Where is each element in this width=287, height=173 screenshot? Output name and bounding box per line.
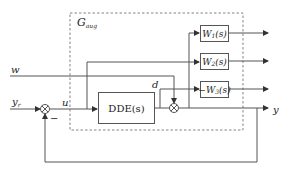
minus-text: −: [50, 113, 58, 124]
yr-main: y: [12, 96, 18, 107]
w3-sub: 3: [215, 88, 219, 95]
g-aug-sub: aug: [86, 22, 97, 29]
u-label: u: [62, 98, 68, 108]
d-text: d: [152, 79, 158, 90]
w3-main: W: [206, 85, 215, 95]
yr-sub: r: [18, 101, 21, 108]
w2-sub: 2: [211, 60, 215, 67]
w-label: w: [11, 65, 20, 75]
w3-prefix: −: [198, 85, 206, 95]
w1-arg: (s): [215, 29, 227, 39]
dde-block: DDE(s): [98, 92, 155, 124]
y-label: y: [273, 105, 279, 115]
d-label: d: [152, 80, 158, 90]
w2-block: W2(s): [200, 53, 229, 70]
u-text: u: [62, 97, 68, 108]
w2-main: W: [202, 57, 211, 67]
dde-label: DDE(s): [108, 103, 144, 114]
w1-main: W: [202, 29, 211, 39]
w2-arg: (s): [215, 57, 227, 67]
w1-sub: 1: [211, 32, 215, 39]
block-diagram: DDE(s) W1(s) W2(s) −W3(s) Gaug w yr u − …: [0, 0, 287, 173]
yr-label: yr: [12, 97, 21, 107]
g-aug-label: Gaug: [77, 17, 97, 28]
sum-junction-disturbance: [170, 104, 179, 113]
w1-block: W1(s): [200, 25, 229, 42]
sum-junction-feedback: [41, 105, 50, 114]
w3-block: −W3(s): [200, 81, 229, 98]
diagram-wires: [0, 0, 287, 173]
w-text: w: [11, 64, 20, 75]
y-text: y: [273, 104, 279, 115]
g-aug-main: G: [77, 16, 86, 29]
minus-sign: −: [50, 114, 58, 124]
w3-arg: (s): [219, 85, 231, 95]
